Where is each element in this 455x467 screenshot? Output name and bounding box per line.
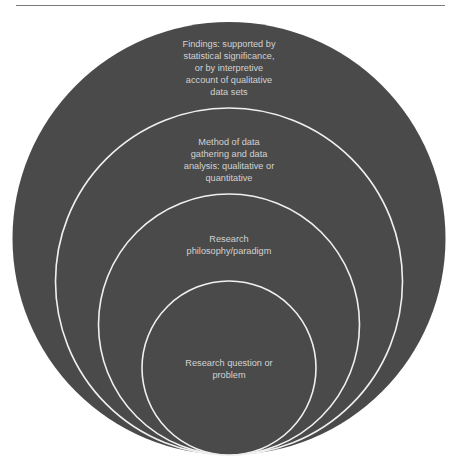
label-line: Research [187, 233, 272, 245]
label-findings: Findings: supported by statistical signi… [183, 38, 276, 98]
label-line: Research question or [185, 357, 272, 369]
label-method: Method of data gathering and data analys… [184, 136, 274, 184]
label-line: data sets [183, 86, 276, 98]
label-line: philosophy/paradigm [187, 245, 272, 257]
label-line: analysis: qualitative or [184, 160, 274, 172]
label-line: Method of data [184, 136, 274, 148]
label-line: gathering and data [184, 148, 274, 160]
label-philosophy: Research philosophy/paradigm [187, 233, 272, 257]
label-line: quantitative [184, 172, 274, 184]
label-line: or by interpretive [183, 62, 276, 74]
label-line: statistical significance, [183, 50, 276, 62]
label-line: Findings: supported by [183, 38, 276, 50]
label-research-question: Research question or problem [185, 357, 272, 381]
label-line: account of qualitative [183, 74, 276, 86]
label-line: problem [185, 369, 272, 381]
